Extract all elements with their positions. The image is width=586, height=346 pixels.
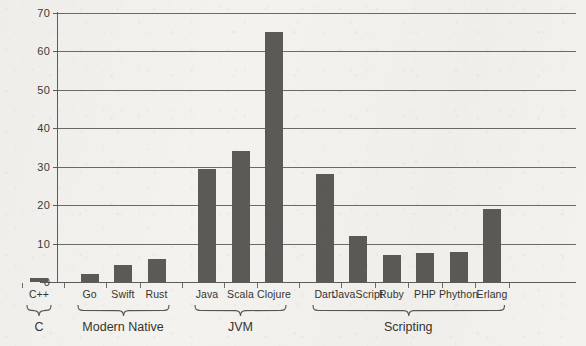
x-tick-label-c-: C++ <box>29 288 49 300</box>
x-tick-mark-4 <box>182 283 183 288</box>
bar-javascript <box>349 236 367 282</box>
group-brace-c <box>26 305 52 317</box>
x-tick-mark-8 <box>341 283 342 288</box>
x-tick-mark-13 <box>509 283 510 288</box>
x-tick-label-clojure: Clojure <box>257 288 291 300</box>
x-tick-label-swift: Swift <box>111 288 134 300</box>
x-tick-mark-6 <box>257 283 258 288</box>
bar-phython <box>450 252 468 282</box>
bar-rust <box>148 259 166 282</box>
x-tick-mark-5 <box>224 283 225 288</box>
bar-erlang <box>483 209 501 282</box>
y-tick-mark-40 <box>53 128 58 129</box>
group-brace-scripting <box>312 305 506 317</box>
x-tick-label-dart: Dart <box>314 288 334 300</box>
bar-java <box>198 169 216 282</box>
gridline-70 <box>58 13 576 14</box>
x-tick-mark-9 <box>375 283 376 288</box>
x-tick-label-java: Java <box>196 288 219 300</box>
group-brace-modern-native <box>77 305 170 317</box>
x-tick-mark-10 <box>408 283 409 288</box>
bar-go <box>81 274 99 282</box>
gridline-50 <box>58 90 576 91</box>
x-tick-mark-1 <box>64 283 65 288</box>
gridline-60 <box>58 51 576 52</box>
x-tick-label-phython: Phython <box>439 288 478 300</box>
y-tick-label-30: 30 <box>10 161 50 173</box>
y-axis-line <box>57 12 58 283</box>
bar-dart <box>316 174 334 282</box>
x-tick-mark-2 <box>106 283 107 288</box>
y-tick-mark-10 <box>53 244 58 245</box>
y-tick-mark-0 <box>53 282 58 283</box>
group-label-modern-native: Modern Native <box>82 320 163 334</box>
bar-ruby <box>383 255 401 282</box>
x-tick-mark-7 <box>299 283 300 288</box>
y-tick-mark-50 <box>53 90 58 91</box>
y-tick-label-60: 60 <box>10 45 50 57</box>
x-tick-mark-3 <box>140 283 141 288</box>
x-tick-label-erlang: Erlang <box>477 288 508 300</box>
x-tick-label-rust: Rust <box>146 288 168 300</box>
x-tick-label-javascript: JavaScript <box>333 288 383 300</box>
y-tick-label-10: 10 <box>10 238 50 250</box>
x-tick-label-go: Go <box>82 288 96 300</box>
group-label-jvm: JVM <box>228 320 253 334</box>
x-tick-mark-0 <box>22 283 23 288</box>
bar-chart: 010203040506070 C++GoSwiftRustJavaScalaC… <box>0 0 586 346</box>
y-tick-mark-30 <box>53 167 58 168</box>
group-label-scripting: Scripting <box>384 320 433 334</box>
x-axis-line <box>40 282 576 283</box>
gridline-30 <box>58 167 576 168</box>
bar-c- <box>30 278 48 282</box>
x-tick-mark-12 <box>475 283 476 288</box>
group-label-c: C <box>34 320 43 334</box>
x-tick-mark-11 <box>442 283 443 288</box>
bar-clojure <box>265 32 283 282</box>
y-tick-label-40: 40 <box>10 122 50 134</box>
x-tick-label-php: PHP <box>414 288 436 300</box>
x-tick-label-ruby: Ruby <box>379 288 404 300</box>
bar-swift <box>114 265 132 282</box>
y-tick-label-70: 70 <box>10 7 50 19</box>
group-brace-jvm <box>194 305 287 317</box>
y-tick-mark-60 <box>53 51 58 52</box>
bar-scala <box>232 151 250 282</box>
x-tick-label-scala: Scala <box>227 288 254 300</box>
gridline-40 <box>58 128 576 129</box>
y-tick-label-50: 50 <box>10 84 50 96</box>
y-tick-mark-70 <box>53 13 58 14</box>
y-tick-mark-20 <box>53 205 58 206</box>
y-tick-label-20: 20 <box>10 199 50 211</box>
bar-php <box>416 253 434 282</box>
